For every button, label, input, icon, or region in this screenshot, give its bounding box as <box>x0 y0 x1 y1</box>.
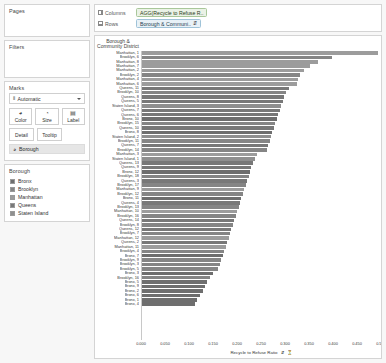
x-axis-title-row: Recycle to Refuse Ratio ⇵ ⏳ <box>141 348 381 356</box>
columns-shelf-text: Columns <box>105 10 125 16</box>
filters-card[interactable]: Filters <box>4 40 90 78</box>
rows-grid-icon <box>98 21 103 26</box>
plot-area: Manhattan, 1Brooklyn, 6Manhattan, 8Manha… <box>95 51 381 340</box>
columns-pill[interactable]: AGG(Recycle to Refuse R.. <box>136 8 207 17</box>
legend-swatch <box>10 195 15 200</box>
bar[interactable] <box>142 302 195 306</box>
mark-type-label: Automatic <box>18 96 74 102</box>
x-axis-title: Recycle to Refuse Ratio <box>230 350 277 355</box>
bar-row[interactable] <box>142 302 381 306</box>
rows-pill[interactable]: Borough & Communi.. ⇵ <box>136 19 201 28</box>
legend-item[interactable]: Bronx <box>10 177 85 185</box>
x-axis-tick-label: 0.500 <box>376 341 382 346</box>
marks-card: Marks ⦀ Automatic ◕ Color ◔ <box>4 81 90 161</box>
marks-tooltip-button[interactable]: Tooltip <box>37 128 62 141</box>
legend-item-label: Manhattan <box>18 194 43 200</box>
view-pane: Columns AGG(Recycle to Refuse R.. Rows B… <box>94 4 382 359</box>
marks-color-button[interactable]: ◕ Color <box>9 108 32 125</box>
x-axis-tick-label: 0.250 <box>256 341 266 346</box>
filter-icon[interactable]: ⏳ <box>287 350 292 355</box>
sort-descending-icon[interactable]: ⇵ <box>193 21 197 26</box>
label-icon: ▤ <box>70 110 76 116</box>
columns-pill-label: AGG(Recycle to Refuse R.. <box>140 10 203 16</box>
size-icon: ◔ <box>45 110 49 116</box>
x-axis-ticks: 0.0000.0500.1000.1500.2000.2500.3000.350… <box>141 340 381 348</box>
tableau-worksheet-window: Pages Filters Marks ⦀ Automatic ◕ <box>0 0 386 363</box>
marks-label-label: Label <box>67 117 79 123</box>
row-label-column: Manhattan, 1Brooklyn, 6Manhattan, 8Manha… <box>95 51 141 340</box>
marks-label-button[interactable]: ▤ Label <box>62 108 85 125</box>
legend-item-label: Staten Island <box>18 210 48 216</box>
rows-shelf[interactable]: Rows Borough & Communi.. ⇵ <box>98 18 378 29</box>
rows-shelf-text: Rows <box>105 21 118 27</box>
marks-detail-button[interactable]: Detail <box>9 128 34 141</box>
legend-item-label: Bronx <box>18 178 32 184</box>
sort-descending-icon[interactable]: ⇵ <box>281 350 284 355</box>
x-axis-tick-label: 0.200 <box>232 341 242 346</box>
marks-button-row-secondary: Detail Tooltip <box>9 128 85 141</box>
color-legend-items: BronxBrooklynManhattanQueensStaten Islan… <box>5 176 89 221</box>
x-axis-tick-label: 0.150 <box>208 341 218 346</box>
legend-swatch <box>10 203 15 208</box>
legend-swatch <box>10 179 15 184</box>
color-legend-card: Borough BronxBrooklynManhattanQueensStat… <box>4 164 90 222</box>
marks-color-field-pill[interactable]: ◕ Borough <box>9 144 85 154</box>
chevron-down-icon[interactable] <box>77 98 81 100</box>
legend-item[interactable]: Staten Island <box>10 209 85 217</box>
legend-item-label: Queens <box>18 202 36 208</box>
mark-type-dropdown[interactable]: ⦀ Automatic <box>9 93 85 104</box>
x-axis-tick-label: 0.000 <box>136 341 146 346</box>
marks-color-label: Color <box>15 117 27 123</box>
marks-size-button[interactable]: ◔ Size <box>35 108 58 125</box>
rows-shelf-label: Rows <box>98 21 132 27</box>
row-label: Bronx, 4 <box>125 302 140 306</box>
bar-mark-icon: ⦀ <box>13 95 15 102</box>
marks-color-field-label: Borough <box>19 146 39 152</box>
columns-grid-icon <box>98 10 103 15</box>
color-icon: ◕ <box>19 110 23 116</box>
row-header-title: Borough & Community District <box>95 36 141 51</box>
bars-column <box>141 51 381 340</box>
legend-item-label: Brooklyn <box>18 186 38 192</box>
shelf-container: Columns AGG(Recycle to Refuse R.. Rows B… <box>94 4 382 32</box>
legend-swatch <box>10 211 15 216</box>
rows-pill-label: Borough & Communi.. <box>140 21 191 27</box>
color-dimension-icon: ◕ <box>13 146 16 152</box>
x-axis-tick-label: 0.300 <box>280 341 290 346</box>
x-axis-tick-label: 0.400 <box>328 341 338 346</box>
legend-swatch <box>10 187 15 192</box>
pages-card-title: Pages <box>5 5 89 16</box>
marks-tooltip-label: Tooltip <box>42 132 56 138</box>
color-legend-title: Borough <box>5 165 89 176</box>
columns-shelf[interactable]: Columns AGG(Recycle to Refuse R.. <box>98 7 378 18</box>
marks-size-label: Size <box>42 117 52 123</box>
filters-card-title: Filters <box>5 41 89 52</box>
legend-item[interactable]: Brooklyn <box>10 185 85 193</box>
x-axis-tick-label: 0.450 <box>352 341 362 346</box>
marks-detail-label: Detail <box>15 132 28 138</box>
legend-item[interactable]: Queens <box>10 201 85 209</box>
marks-card-title: Marks <box>5 82 89 93</box>
x-axis-tick-label: 0.100 <box>184 341 194 346</box>
x-axis-band: 0.0000.0500.1000.1500.2000.2500.3000.350… <box>95 340 381 358</box>
pages-card[interactable]: Pages <box>4 4 90 37</box>
legend-item[interactable]: Manhattan <box>10 193 85 201</box>
x-axis-tick-label: 0.050 <box>160 341 170 346</box>
left-sidebar: Pages Filters Marks ⦀ Automatic ◕ <box>4 4 90 359</box>
marks-button-row-primary: ◕ Color ◔ Size ▤ Label <box>9 108 85 125</box>
columns-shelf-label: Columns <box>98 10 132 16</box>
x-axis-tick-label: 0.350 <box>304 341 314 346</box>
chart-canvas: Borough & Community District Manhattan, … <box>94 35 382 359</box>
